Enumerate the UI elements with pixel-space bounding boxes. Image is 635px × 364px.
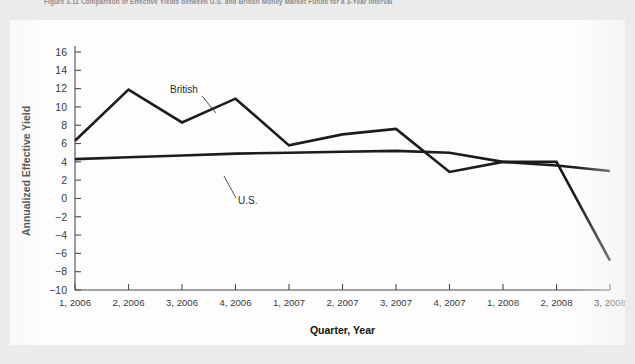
series-label-british: British [170,84,198,95]
x-tick-label: 4, 2007 [433,297,465,308]
y-tick-label: 6 [61,137,67,149]
x-tick-label: 3, 2008 [594,297,625,308]
line-chart: −10−8−6−4−20246810121416 1, 20062, 20063… [10,20,625,345]
x-tick-label: 3, 2006 [166,297,198,308]
y-tick-label: −6 [55,247,67,259]
series-line-british [75,90,610,261]
y-tick-label: 10 [55,101,67,113]
y-tick-marks [75,52,81,290]
x-tick-labels: 1, 20062, 20063, 20064, 20061, 20072, 20… [59,297,625,308]
series-label-us: U.S. [238,195,257,206]
y-tick-label: −4 [55,229,67,241]
x-tick-label: 1, 2007 [273,297,305,308]
y-tick-label: 12 [55,82,67,94]
us-leader-line [224,176,236,198]
x-axis-title: Quarter, Year [310,324,375,336]
y-tick-labels: −10−8−6−4−20246810121416 [49,46,67,296]
x-tick-label: 3, 2007 [380,297,412,308]
y-tick-label: 16 [55,46,67,58]
y-tick-label: 0 [61,192,67,204]
y-tick-label: 8 [61,119,67,131]
chart-panel: −10−8−6−4−20246810121416 1, 20062, 20063… [10,20,625,345]
y-tick-label: 4 [61,156,67,168]
x-tick-label: 1, 2006 [59,297,91,308]
y-tick-label: 14 [55,64,67,76]
x-tick-label: 2, 2008 [540,297,572,308]
x-tick-label: 2, 2006 [112,297,144,308]
y-tick-label: −8 [55,265,67,277]
x-tick-marks [75,284,610,290]
x-tick-label: 4, 2006 [219,297,251,308]
figure-caption: Figure 3.11 Comparison of Effective Yiel… [44,0,604,7]
y-tick-label: −2 [55,211,67,223]
y-tick-label: −10 [49,284,67,296]
x-tick-label: 2, 2007 [326,297,358,308]
y-tick-label: 2 [61,174,67,186]
y-axis-title: Annualized Effective Yield [20,106,32,236]
x-tick-label: 1, 2008 [487,297,519,308]
